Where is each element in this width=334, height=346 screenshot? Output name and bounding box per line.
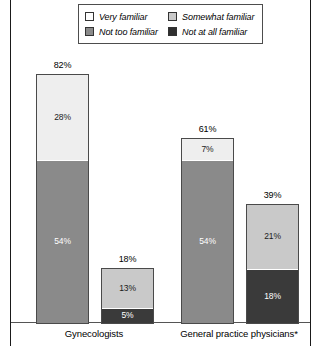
chart-legend: Very familiar Somewhat familiar Not too … <box>78 4 263 44</box>
bar-segment: 54% <box>37 160 88 323</box>
legend-row-2: Not too familiar Not at all familiar <box>85 24 257 39</box>
legend-item-not-at-all-familiar: Not at all familiar <box>168 24 257 39</box>
stacked-bar: 7%54% <box>181 138 234 324</box>
bar-segment-label: 21% <box>264 232 281 241</box>
legend-label-very-familiar: Very familiar <box>99 12 147 22</box>
group-label: General practice physicians* <box>159 328 319 339</box>
stacked-bar: 13%5% <box>101 268 154 324</box>
bar-segment: 54% <box>182 160 233 323</box>
legend-row-1: Very familiar Somewhat familiar <box>85 9 257 24</box>
legend-swatch-very-familiar <box>85 12 94 21</box>
bar-segment-label: 28% <box>54 113 71 122</box>
bar-total-label: 39% <box>246 190 299 200</box>
legend-swatch-not-too-familiar <box>85 27 94 36</box>
bar-segment: 7% <box>182 139 233 160</box>
legend-swatch-somewhat-familiar <box>168 12 177 21</box>
bar-total-label: 61% <box>181 124 234 134</box>
bar-segment: 13% <box>102 269 153 308</box>
bar-segment: 18% <box>247 269 298 323</box>
legend-item-not-too-familiar: Not too familiar <box>85 24 168 39</box>
group-label: Gynecologists <box>24 328 164 339</box>
bar-segment-label: 54% <box>199 237 216 246</box>
bar-segment: 21% <box>247 205 298 268</box>
bar-total-label: 82% <box>36 60 89 70</box>
legend-label-somewhat-familiar: Somewhat familiar <box>182 12 254 22</box>
bar-segment-label: 5% <box>121 311 133 320</box>
legend-label-not-too-familiar: Not too familiar <box>99 27 158 37</box>
bar-segment-label: 7% <box>201 145 213 154</box>
legend-item-somewhat-familiar: Somewhat familiar <box>168 9 257 24</box>
bar-segment-label: 54% <box>54 237 71 246</box>
stacked-bar: 21%18% <box>246 204 299 324</box>
bar-segment-label: 18% <box>264 292 281 301</box>
legend-label-not-at-all-familiar: Not at all familiar <box>182 27 247 37</box>
legend-swatch-not-at-all-familiar <box>168 27 177 36</box>
bar-segment-label: 13% <box>119 284 136 293</box>
bar-total-label: 18% <box>101 254 154 264</box>
bar-segment: 28% <box>37 75 88 160</box>
bar-segment: 5% <box>102 308 153 323</box>
frame-right-rule <box>310 0 311 346</box>
legend-item-very-familiar: Very familiar <box>85 9 168 24</box>
stacked-bar: 28%54% <box>36 74 89 324</box>
